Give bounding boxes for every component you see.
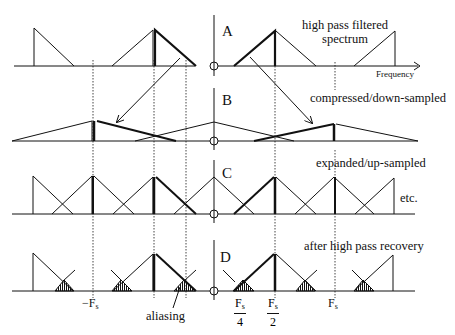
frequency-axis-label: Frequency — [376, 70, 414, 79]
panel-c-label: expanded/up-sampled — [316, 157, 426, 170]
panel-b-letter: B — [222, 93, 232, 108]
center-axis — [210, 15, 218, 300]
tick-neg-fs: −Fs — [82, 297, 99, 311]
panel-d-letter: D — [220, 250, 231, 265]
tick-fs-over-4: Fs 4 — [234, 297, 246, 328]
panel-b-spectrum — [12, 121, 418, 141]
panel-a-label-line2: spectrum — [290, 33, 400, 46]
panel-c-etc-note: etc. — [400, 192, 418, 205]
tick-fs-over-2: Fs 2 — [267, 297, 279, 328]
panel-d-label: after high pass recovery — [304, 240, 424, 253]
panel-c-letter: C — [222, 166, 232, 181]
panel-b-label: compressed/down-sampled — [310, 92, 446, 105]
panel-a-letter: A — [222, 24, 233, 39]
aliasing-annotation: aliasing — [146, 310, 185, 323]
spectrum-diagram: A B C D high pass filtered spectrum Freq… — [0, 0, 455, 335]
panel-a-label: high pass filtered — [290, 19, 400, 32]
tick-fs: Fs — [328, 297, 338, 311]
